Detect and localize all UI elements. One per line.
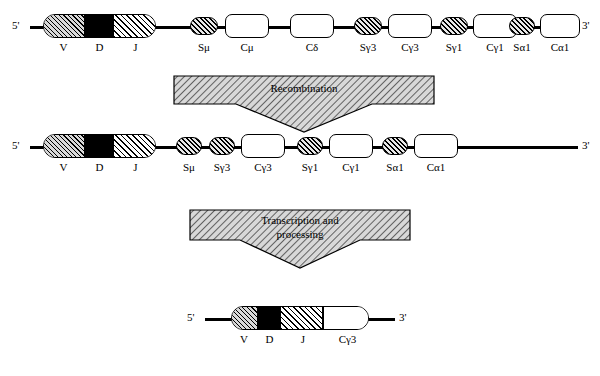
switch-region-sgamma3 [209, 137, 235, 155]
recombined-dna-row: 5' 3' V D J Sμ Sγ3 Cγ3 Sγ1 Cγ1 Sα1 [0, 128, 600, 168]
switch-region-sgamma1 [297, 137, 323, 155]
label-cgamma1: Cγ1 [329, 161, 373, 173]
diagram-canvas: 5' 3' V D J Sμ Cμ Cδ Sγ3 Cγ3 Sγ1 [0, 0, 600, 376]
label-calpha1: Cα1 [414, 161, 458, 173]
switch-region-smu [176, 137, 202, 155]
transcription-arrow-label-line2: processing [188, 228, 412, 241]
mature-mrna-row: 5' 3' V D J Cγ3 [0, 300, 600, 340]
label-cgamma3: Cγ3 [325, 333, 370, 345]
switch-region-salpha1 [509, 17, 535, 35]
label-sgamma1: Sγ1 [291, 161, 329, 173]
transcription-arrow-label-line1: Transcription and [188, 214, 412, 227]
label-salpha1: Sα1 [376, 161, 414, 173]
label-cgamma3: Cγ3 [241, 161, 285, 173]
vdjc-capsule [231, 306, 369, 330]
five-prime-label: 5' [187, 311, 194, 323]
five-prime-label: 5' [12, 139, 19, 151]
constant-region-calpha1 [540, 14, 580, 38]
three-prime-label: 3' [582, 139, 589, 151]
constant-region-calpha1 [414, 134, 458, 158]
label-j: J [282, 333, 324, 345]
label-calpha1: Cα1 [540, 41, 580, 53]
label-v: V [231, 333, 257, 345]
constant-region-cgamma1 [329, 134, 373, 158]
recombination-arrow: Recombination [172, 74, 436, 134]
label-d: D [258, 333, 281, 345]
label-j: J [115, 161, 156, 173]
transcription-arrow: Transcription and processing [188, 208, 412, 270]
recombination-arrow-label: Recombination [172, 82, 436, 95]
label-sgamma3: Sγ3 [203, 161, 241, 173]
germline-dna-row-tail: Sα1 Cα1 [0, 8, 600, 48]
label-v: V [43, 161, 84, 173]
label-d: D [85, 161, 114, 173]
vdj-capsule [43, 134, 156, 158]
constant-region-cgamma3 [241, 134, 285, 158]
three-prime-label: 3' [399, 311, 406, 323]
switch-region-salpha1 [382, 137, 408, 155]
label-smu: Sμ [172, 161, 206, 173]
label-salpha1: Sα1 [505, 41, 539, 53]
